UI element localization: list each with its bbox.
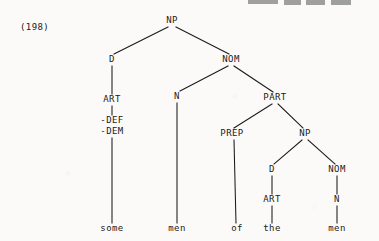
tree-leaf-leaf-men1: men xyxy=(168,223,185,233)
tree-leaf-leaf-the: the xyxy=(263,223,280,233)
tree-node-art-inner: ART xyxy=(263,194,280,204)
tree-edge-np-root-to-d-outer xyxy=(114,27,168,54)
feature-line: -DEF xyxy=(100,115,123,126)
tree-node-art-outer: ART xyxy=(103,94,120,104)
tree-edge-nom-outer-to-part xyxy=(234,66,273,92)
tree-node-prep: PREP xyxy=(220,128,243,138)
tree-edge-part-to-np-inner xyxy=(278,104,303,128)
tree-edges xyxy=(0,0,379,241)
tree-node-nom-outer: NOM xyxy=(222,54,239,64)
tree-edge-np-root-to-nom-outer xyxy=(176,27,229,54)
tree-node-n-outer: N xyxy=(174,91,180,101)
tree-leaf-leaf-of: of xyxy=(231,223,243,233)
figure-page: (198) NPDNOMARTNPARTPREPNPDNOMARTN-DEF-D… xyxy=(0,0,379,241)
tree-node-nom-inner: NOM xyxy=(328,164,345,174)
tree-leaf-leaf-some: some xyxy=(100,223,123,233)
tree-edge-part-to-prep xyxy=(234,104,272,128)
tree-node-d-outer: D xyxy=(109,54,115,64)
tree-leaf-leaf-men2: men xyxy=(328,223,345,233)
tree-edge-np-inner-to-nom-inner xyxy=(308,140,335,164)
tree-node-np-root: NP xyxy=(166,15,178,25)
tree-node-np-inner: NP xyxy=(299,128,311,138)
tree-edge-np-inner-to-d-inner xyxy=(274,140,302,164)
feature-line: -DEM xyxy=(100,126,123,137)
feature-bundle-art-outer-features: -DEF-DEM xyxy=(100,115,123,137)
tree-edge-nom-outer-to-n-outer xyxy=(180,66,228,91)
tree-node-part: PART xyxy=(263,92,286,102)
tree-edge-prep-to-leaf-of xyxy=(234,140,236,223)
tree-node-n-inner: N xyxy=(334,194,340,204)
tree-node-d-inner: D xyxy=(269,164,275,174)
